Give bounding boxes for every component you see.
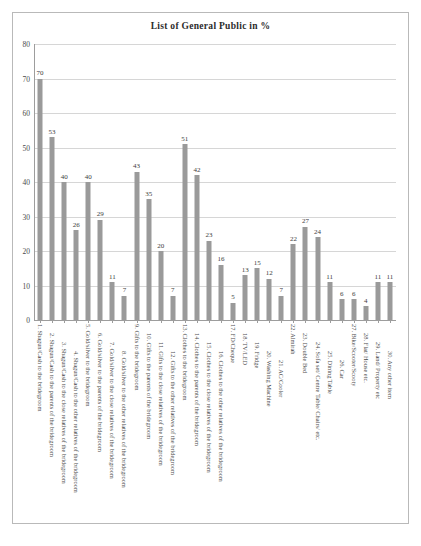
x-tick-mark [293, 320, 294, 323]
y-tick-label: 10 [23, 281, 31, 290]
bar-value-label: 7 [280, 286, 284, 294]
y-tick-label: 60 [23, 109, 31, 118]
bar-value-label: 40 [85, 173, 92, 181]
bar-series: 7053402640291174335207514223165131512722… [34, 44, 396, 320]
x-axis-tick-label: 29. Land/ Property etc [375, 342, 381, 399]
x-label-slot: 13. Clothes to the bridegroom [179, 324, 191, 514]
bar-slot: 4 [360, 44, 372, 320]
bar-slot: 11 [372, 44, 384, 320]
bar-slot: 43 [131, 44, 143, 320]
bar[interactable] [339, 299, 344, 320]
x-label-slot: 5. Gold/silver to the bridegroom [82, 324, 94, 514]
bar-slot: 12 [263, 44, 275, 320]
bar-value-label: 29 [97, 210, 104, 218]
x-label-slot: 12. Gifts to the other relatives of the … [167, 324, 179, 514]
x-label-slot: 24. Sofa set/ Centre Table/ Chairs/ etc. [312, 324, 324, 514]
x-tick-mark [76, 320, 77, 323]
bar[interactable] [134, 172, 139, 320]
bar[interactable] [50, 137, 55, 320]
x-axis-tick-label: 7. Gold/silver to the close relatives of… [109, 342, 115, 479]
x-axis-tick-label: 21. AC/Cooler [278, 360, 284, 397]
chart-figure: List of General Public in % 010203040506… [12, 12, 409, 524]
x-label-slot: 1. Shagun/Cash to the bridegroom [34, 324, 46, 514]
x-axis-tick-label: 8. Gold/silver to the other relatives of… [121, 351, 127, 488]
x-axis-tick-label: 6. Gold/silver to the parents of the bri… [97, 333, 103, 452]
bar-value-label: 16 [218, 255, 225, 263]
x-label-slot: 20. Washing Machine [263, 324, 275, 514]
bar-slot: 6 [348, 44, 360, 320]
x-label-slot: 17. FD/Cheque [227, 324, 239, 514]
bar[interactable] [315, 237, 320, 320]
bar-slot: 27 [299, 44, 311, 320]
bar-value-label: 11 [387, 273, 394, 281]
x-label-slot: 22. Almirah [287, 324, 299, 514]
bar-value-label: 51 [181, 135, 188, 143]
x-tick-mark [257, 320, 258, 323]
bar-slot: 53 [46, 44, 58, 320]
y-tick-label: 0 [26, 316, 30, 325]
bar[interactable] [122, 296, 127, 320]
bar-value-label: 23 [205, 231, 212, 239]
x-axis-tick-label: 1. Shagun/Cash to the bridegroom [37, 324, 43, 412]
bar[interactable] [231, 303, 236, 320]
bar-value-label: 43 [133, 162, 140, 170]
x-label-slot: 18. TV/LED [239, 324, 251, 514]
x-tick-mark [40, 320, 41, 323]
x-axis-tick-label: 20. Washing Machine [266, 351, 272, 407]
bar[interactable] [86, 182, 91, 320]
bar[interactable] [110, 282, 115, 320]
x-axis-tick-label: 27. Bike/Scooter/Scooty [351, 324, 357, 386]
x-label-slot: 8. Gold/silver to the other relatives of… [118, 324, 130, 514]
x-tick-mark [185, 320, 186, 323]
bar[interactable] [243, 275, 248, 320]
bar[interactable] [38, 79, 43, 321]
bar[interactable] [62, 182, 67, 320]
x-axis-tick-label: 9. Gifts to the bridegroom [133, 324, 139, 391]
bar[interactable] [170, 296, 175, 320]
x-tick-mark [52, 320, 53, 323]
bar-value-label: 35 [145, 190, 152, 198]
x-tick-mark [245, 320, 246, 323]
bar[interactable] [327, 282, 332, 320]
y-tick-label: 20 [23, 247, 31, 256]
bar[interactable] [74, 230, 79, 320]
x-tick-mark [305, 320, 306, 323]
bar[interactable] [267, 279, 272, 320]
bar[interactable] [279, 296, 284, 320]
bar[interactable] [194, 175, 199, 320]
x-label-slot: 28. Flat/ House etc. [360, 324, 372, 514]
y-tick-label: 40 [23, 178, 31, 187]
bar[interactable] [351, 299, 356, 320]
bar-slot: 42 [191, 44, 203, 320]
x-tick-mark [112, 320, 113, 323]
bar-slot: 20 [155, 44, 167, 320]
x-axis-tick-label: 17. FD/Cheque [230, 324, 236, 363]
bar[interactable] [387, 282, 392, 320]
x-axis-tick-label: 2. Shagun/Cash to the parents of the bri… [49, 333, 55, 457]
x-tick-mark [281, 320, 282, 323]
x-tick-mark [64, 320, 65, 323]
x-label-slot: 29. Land/ Property etc [372, 324, 384, 514]
bar-value-label: 20 [157, 242, 164, 250]
bar[interactable] [375, 282, 380, 320]
bar[interactable] [98, 220, 103, 320]
x-label-slot: 6. Gold/silver to the parents of the bri… [94, 324, 106, 514]
x-label-slot: 25. Dining Table [324, 324, 336, 514]
bar[interactable] [363, 306, 368, 320]
bar[interactable] [206, 241, 211, 320]
x-axis-tick-label: 4. Shagun/Cash to the other relatives of… [73, 351, 79, 493]
bar[interactable] [146, 199, 151, 320]
bar[interactable] [182, 144, 187, 320]
plot-area: 01020304050607080 7053402640291174335207… [34, 44, 396, 320]
y-tick-label: 30 [23, 212, 31, 221]
bar[interactable] [219, 265, 224, 320]
bar-value-label: 13 [242, 266, 249, 274]
bar-slot: 24 [312, 44, 324, 320]
bar[interactable] [291, 244, 296, 320]
bar[interactable] [158, 251, 163, 320]
x-tick-mark [221, 320, 222, 323]
bar[interactable] [255, 268, 260, 320]
x-tick-mark [137, 320, 138, 323]
bar[interactable] [303, 227, 308, 320]
bar-value-label: 22 [290, 235, 297, 243]
